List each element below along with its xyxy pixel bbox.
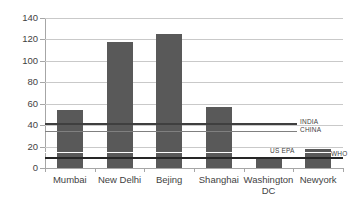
y-tick-label: 140 bbox=[2, 13, 38, 23]
x-tick-mark bbox=[45, 168, 46, 172]
y-tick-label: 100 bbox=[2, 56, 38, 66]
x-tick-label-mumbai: Mumbai bbox=[45, 174, 95, 185]
x-tick-mark bbox=[144, 168, 145, 172]
reference-label-india: INDIA bbox=[300, 119, 318, 126]
y-tick-label: 120 bbox=[2, 35, 38, 45]
x-tick-label-bejing: Bejing bbox=[144, 174, 194, 185]
x-tick-mark bbox=[293, 168, 294, 172]
x-tick-mark bbox=[244, 168, 245, 172]
gridline bbox=[45, 125, 343, 126]
plot-area bbox=[45, 18, 343, 168]
gridline bbox=[45, 39, 343, 40]
reference-label-china: CHINA bbox=[300, 127, 321, 134]
reference-line-us-epa bbox=[45, 152, 343, 154]
reference-line-china bbox=[45, 131, 297, 133]
reference-line-india bbox=[45, 123, 297, 125]
x-tick-mark bbox=[95, 168, 96, 172]
reference-label-who: WHO bbox=[331, 151, 348, 158]
y-tick-label: 80 bbox=[2, 78, 38, 88]
gridline bbox=[45, 61, 343, 62]
x-tick-label-newyork: Newyork bbox=[293, 174, 343, 185]
bar-mumbai bbox=[57, 110, 83, 168]
bar-chart: 0 20 40 60 80 100 120 140 bbox=[0, 0, 361, 210]
bar-bejing bbox=[156, 34, 182, 168]
x-tick-label-new-delhi: New Delhi bbox=[95, 174, 145, 185]
y-tick-label: 60 bbox=[2, 99, 38, 109]
y-tick-label: 20 bbox=[2, 142, 38, 152]
gridline bbox=[45, 82, 343, 83]
gridline bbox=[45, 18, 343, 19]
gridline bbox=[45, 104, 343, 105]
reference-line-who bbox=[45, 157, 343, 159]
bar-washington-dc bbox=[256, 159, 282, 168]
x-tick-mark bbox=[343, 168, 344, 172]
x-tick-label-shanghai: Shanghai bbox=[194, 174, 244, 185]
x-tick-label-washington-dc: Washington DC bbox=[239, 174, 298, 196]
bar-new-delhi bbox=[107, 42, 133, 168]
x-tick-mark bbox=[194, 168, 195, 172]
gridline bbox=[45, 147, 343, 148]
y-tick-label: 0 bbox=[2, 163, 38, 173]
reference-label-us-epa: US EPA bbox=[270, 148, 295, 155]
y-tick-label: 40 bbox=[2, 120, 38, 130]
